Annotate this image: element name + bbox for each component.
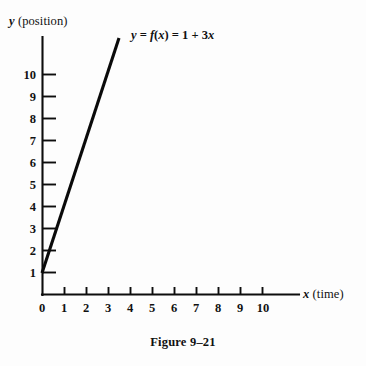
y-tick-label: 7 xyxy=(30,134,36,148)
x-tick-label: 1 xyxy=(61,301,67,315)
y-tick-label: 10 xyxy=(24,68,37,82)
y-tick-labels: 1 2 3 4 5 6 7 8 9 10 xyxy=(24,68,37,280)
y-tick-label: 6 xyxy=(30,156,36,170)
figure-container: 1 2 3 4 5 6 7 8 9 10 0 1 2 xyxy=(0,0,366,366)
y-tick-label: 1 xyxy=(30,266,36,280)
x-tick-label: 0 xyxy=(39,301,45,315)
y-axis-label: y (position) xyxy=(9,14,68,29)
x-axis-label-text: (time) xyxy=(309,287,343,301)
function-line-plot xyxy=(42,38,119,273)
y-tick-marks xyxy=(43,75,56,273)
x-tick-label: 8 xyxy=(215,301,221,315)
y-axis-label-text: (position) xyxy=(15,14,68,28)
y-tick-label: 9 xyxy=(30,90,36,104)
y-tick-label: 8 xyxy=(30,112,36,126)
equation-equals-first: = xyxy=(137,28,150,42)
y-tick-label: 5 xyxy=(30,178,36,192)
equation-equals-second: = 1 + 3 xyxy=(169,28,208,42)
x-tick-label: 9 xyxy=(237,301,243,315)
figure-caption: Figure 9–21 xyxy=(0,335,366,350)
x-tick-label: 2 xyxy=(83,301,89,315)
x-tick-label: 10 xyxy=(257,301,270,315)
x-tick-label: 6 xyxy=(171,301,177,315)
x-tick-label: 7 xyxy=(193,301,199,315)
plot-area: 1 2 3 4 5 6 7 8 9 10 0 1 2 xyxy=(0,0,366,366)
y-tick-label: 3 xyxy=(30,222,36,236)
x-tick-label: 5 xyxy=(149,301,155,315)
equation-annotation: y = f(x) = 1 + 3x xyxy=(131,28,214,43)
x-axis-label: x (time) xyxy=(303,287,344,302)
y-tick-label: 4 xyxy=(30,200,37,214)
x-tick-labels: 0 1 2 3 4 5 6 7 8 9 10 xyxy=(39,301,269,315)
y-tick-label: 2 xyxy=(30,244,36,258)
x-tick-marks xyxy=(65,287,263,294)
equation-x-variable-term: x xyxy=(208,28,214,42)
x-tick-label: 3 xyxy=(105,301,111,315)
x-tick-label: 4 xyxy=(127,301,134,315)
